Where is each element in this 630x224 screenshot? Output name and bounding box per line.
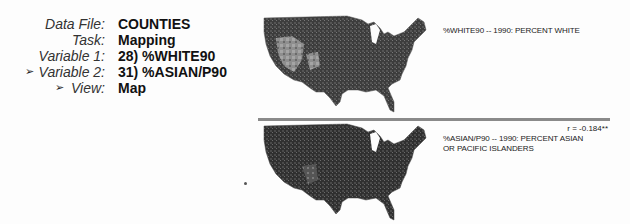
task-label: Task: [72,32,105,48]
map-2-caption-line-2: OR PACIFIC ISLANDERS [443,144,583,154]
data-file-value: COUNTIES [118,16,190,32]
pointer-arrow-icon: ➢ [25,65,34,78]
variable-2-value: 31) %ASIAN/P90 [118,64,227,80]
data-file-label: Data File: [45,16,105,32]
pointer-arrow-icon: ➢ [55,81,64,94]
us-county-map-asian-p90[interactable] [262,122,437,224]
variable-2-label: Variable 2: [39,64,105,80]
map-2-caption: %ASIAN/P90 -- 1990: PERCENT ASIAN OR PAC… [443,134,583,154]
map-separator [258,118,610,121]
us-county-map-white90[interactable] [262,14,437,116]
correlation-value: r = -0.184** [567,124,608,133]
view-value: Map [118,80,146,96]
info-row-data-file[interactable]: Data File: COUNTIES [0,16,250,32]
info-row-variable-1[interactable]: Variable 1: 28) %WHITE90 [0,48,250,64]
map-2-caption-line-1: %ASIAN/P90 -- 1990: PERCENT ASIAN [443,134,583,144]
view-label: View: [71,80,105,96]
variable-info-panel: Data File: COUNTIES Task: Mapping Variab… [0,16,250,96]
info-row-view[interactable]: ➢ View: Map [0,80,250,96]
info-row-variable-2[interactable]: ➢ Variable 2: 31) %ASIAN/P90 [0,64,250,80]
variable-1-label: Variable 1: [39,48,105,64]
variable-1-value: 28) %WHITE90 [118,48,215,64]
task-value: Mapping [118,32,176,48]
scan-artifact-dot [244,182,247,185]
info-row-task[interactable]: Task: Mapping [0,32,250,48]
map-1-caption: %WHITE90 -- 1990: PERCENT WHITE [443,26,580,36]
